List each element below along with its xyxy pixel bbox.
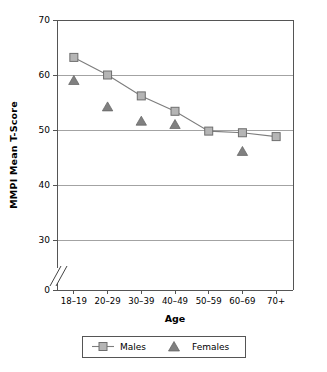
males-marker-6 bbox=[272, 133, 280, 141]
y-tick-label: 50 bbox=[39, 125, 51, 135]
chart-container: 03040506070 18–1920–2930–3940–4950–5960–… bbox=[0, 0, 327, 372]
y-axis-title: MMPI Mean T-Score bbox=[8, 101, 19, 209]
males-marker-5 bbox=[238, 129, 246, 137]
legend-males-label: Males bbox=[120, 342, 146, 352]
y-tick-label: 0 bbox=[44, 285, 50, 295]
males-marker-1 bbox=[104, 71, 112, 79]
x-tick-label: 60–69 bbox=[229, 296, 255, 306]
x-tick-label: 50–59 bbox=[196, 296, 222, 306]
y-axis-ticks: 03040506070 bbox=[39, 15, 57, 295]
males-marker-3 bbox=[171, 107, 179, 115]
chart-legend: Males Females bbox=[82, 336, 245, 357]
males-marker-4 bbox=[205, 127, 213, 135]
legend-females-label: Females bbox=[192, 342, 230, 352]
males-marker-0 bbox=[70, 53, 78, 61]
males-marker-2 bbox=[137, 92, 145, 100]
y-tick-label: 70 bbox=[39, 15, 51, 25]
x-axis-title: Age bbox=[165, 313, 186, 324]
y-tick-label: 60 bbox=[39, 70, 51, 80]
x-tick-label: 20–29 bbox=[94, 296, 120, 306]
y-tick-label: 40 bbox=[39, 180, 51, 190]
x-tick-label: 30–39 bbox=[128, 296, 154, 306]
legend-males-square-icon bbox=[99, 343, 107, 351]
plot-area-background bbox=[57, 20, 293, 290]
x-tick-label: 70+ bbox=[267, 296, 285, 306]
x-axis-ticks: 18–1920–2930–3940–4950–5960–6970+ bbox=[61, 290, 285, 306]
x-tick-label: 18–19 bbox=[61, 296, 87, 306]
y-tick-label: 30 bbox=[39, 235, 51, 245]
x-tick-label: 40–49 bbox=[162, 296, 188, 306]
mmpi-t-score-line-chart: 03040506070 18–1920–2930–3940–4950–5960–… bbox=[0, 0, 327, 372]
